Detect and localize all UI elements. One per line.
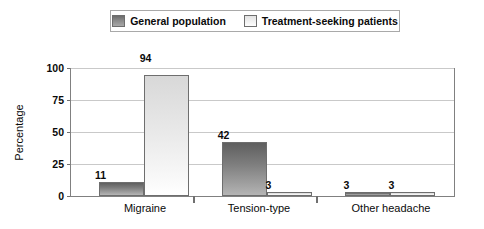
bar-value-other-headache-treatment-seeking: 3: [369, 180, 414, 191]
bar-other-headache-general-population: [345, 192, 390, 196]
legend-swatch-light-icon: [244, 15, 257, 27]
bar-chart: General population Treatment-seeking pat…: [0, 0, 484, 229]
legend-item-general-population: General population: [112, 15, 226, 27]
x-axis-label-tension-type: Tension-type: [214, 203, 304, 214]
legend-item-treatment-seeking-patients: Treatment-seeking patients: [244, 15, 398, 27]
legend-swatch-dark-icon: [112, 15, 125, 27]
bar-value-tension-type-general-population: 42: [201, 130, 246, 141]
x-axis-separator-1: [193, 196, 195, 203]
x-axis-label-other-headache: Other headache: [341, 203, 441, 214]
y-tick-label-25: 25: [36, 159, 64, 170]
bar-migraine-general-population: [99, 182, 144, 196]
chart-legend: General population Treatment-seeking pat…: [110, 10, 400, 32]
gridline-75: [71, 100, 454, 101]
bar-tension-type-treatment-seeking: [267, 192, 312, 196]
legend-label-general-population: General population: [130, 16, 226, 27]
y-tick-label-100: 100: [36, 63, 64, 74]
bar-value-tension-type-treatment-seeking: 3: [246, 180, 291, 191]
gridline-50: [71, 132, 454, 133]
x-axis-label-migraine: Migraine: [100, 203, 190, 214]
bar-migraine-treatment-seeking: [144, 75, 189, 196]
bar-value-other-headache-general-population: 3: [324, 180, 369, 191]
plot-area: [70, 68, 455, 197]
bar-value-migraine-general-population: 11: [78, 170, 123, 181]
y-tick-label-50: 50: [36, 127, 64, 138]
bar-other-headache-treatment-seeking: [390, 192, 435, 196]
bar-value-migraine-treatment-seeking: 94: [123, 53, 168, 64]
y-axis-title-text: Percentage: [14, 104, 25, 160]
y-axis-title: Percentage: [10, 68, 28, 197]
y-tick-label-75: 75: [36, 95, 64, 106]
gridline-100: [71, 68, 454, 69]
y-tick-label-0: 0: [36, 191, 64, 202]
x-axis-separator-2: [316, 196, 318, 203]
legend-label-treatment-seeking-patients: Treatment-seeking patients: [262, 16, 398, 27]
